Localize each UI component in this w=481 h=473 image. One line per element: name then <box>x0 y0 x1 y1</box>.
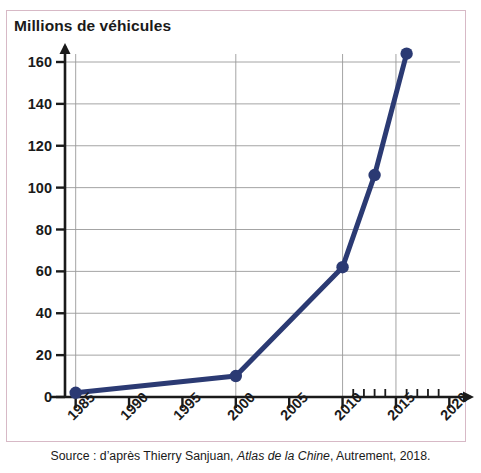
data-point-2010 <box>336 261 348 273</box>
y-tick-label-60: 60 <box>8 263 52 279</box>
source-note: Source : d’après Thierry Sanjuan, Atlas … <box>0 449 481 463</box>
y-tick-label-40: 40 <box>8 305 52 321</box>
series-line <box>76 54 407 393</box>
data-point-2000 <box>230 370 242 382</box>
figure-root: Millions de véhicules 020406080100120140… <box>0 0 481 473</box>
y-tick-label-160: 160 <box>8 54 52 70</box>
series-markers <box>69 47 412 399</box>
source-title: Atlas de la Chine <box>237 449 330 463</box>
y-tick-label-0: 0 <box>8 389 52 405</box>
source-prefix: Source : d’après Thierry Sanjuan, <box>51 449 237 463</box>
y-tick-label-80: 80 <box>8 222 52 238</box>
vertical-gridlines <box>76 54 396 397</box>
y-tick-label-120: 120 <box>8 138 52 154</box>
data-point-2016 <box>400 47 412 59</box>
y-tick-label-20: 20 <box>8 347 52 363</box>
y-tick-label-100: 100 <box>8 180 52 196</box>
horizontal-gridlines <box>65 62 460 355</box>
line-chart-plot <box>0 0 481 445</box>
y-axis-arrowhead <box>60 43 71 54</box>
chart-area: Millions de véhicules 020406080100120140… <box>0 0 481 445</box>
source-suffix: , Autrement, 2018. <box>330 449 431 463</box>
data-point-2013 <box>368 169 380 181</box>
y-tick-label-140: 140 <box>8 96 52 112</box>
